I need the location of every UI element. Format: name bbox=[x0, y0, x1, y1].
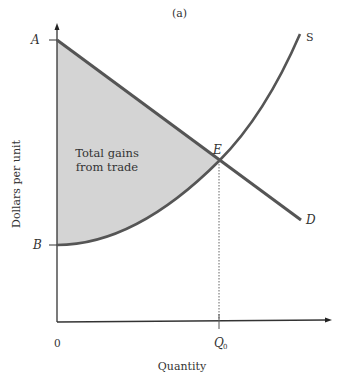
panel-label: (a) bbox=[172, 7, 187, 20]
x-axis bbox=[57, 314, 332, 329]
supply-label: S bbox=[306, 31, 314, 44]
x-axis-label: Quantity bbox=[158, 360, 207, 373]
svg-text:0: 0 bbox=[223, 343, 227, 351]
point-e-label: E bbox=[212, 143, 222, 157]
point-a-label: A bbox=[30, 33, 40, 47]
region-label-line1: Total gains bbox=[75, 146, 139, 160]
x-axis-arrow-icon bbox=[325, 318, 332, 323]
demand-label: D bbox=[305, 213, 316, 227]
q0-label: Q 0 bbox=[214, 336, 227, 351]
region-label-line2: from trade bbox=[76, 160, 139, 174]
y-axis-label: Dollars per unit bbox=[10, 140, 23, 228]
point-b-label: B bbox=[32, 238, 42, 252]
origin-label: 0 bbox=[54, 337, 61, 349]
gains-from-trade-diagram: (a) A B E S D Total gains from trade 0 Q… bbox=[0, 0, 342, 382]
y-axis-arrow-icon bbox=[55, 23, 60, 30]
